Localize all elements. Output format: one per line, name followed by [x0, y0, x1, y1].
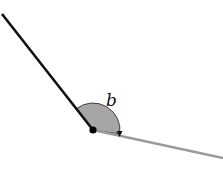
ray-light — [93, 130, 223, 158]
angle-label: b — [106, 90, 117, 110]
vertex-point — [89, 126, 96, 133]
angle-diagram: b — [0, 0, 223, 174]
ray-dark — [2, 14, 93, 130]
